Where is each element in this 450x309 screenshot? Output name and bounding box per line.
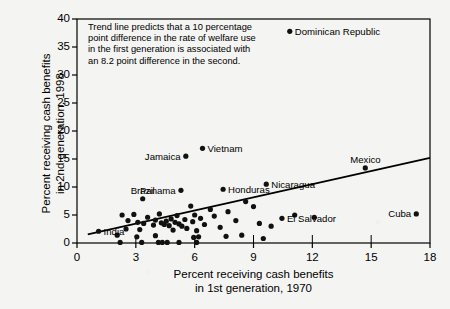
point-label: El Salvador [287,213,336,224]
point-label: Brazil [131,185,155,196]
point-label: Jamaica [145,151,181,162]
y-tick-label: 5 [40,208,70,220]
data-point [135,220,140,225]
point-label: Honduras [228,184,270,195]
point-label: Cuba [388,208,411,219]
point-label: Vietnam [208,143,243,154]
data-point [208,207,213,212]
point-label: Nicaragua [271,179,315,190]
data-point [118,240,123,245]
x-axis-title: Percent receiving cash benefits in 1st g… [77,268,430,295]
data-point [153,233,158,238]
data-point [153,217,158,222]
data-point [251,204,256,209]
point-label: Dominican Republic [295,26,380,37]
data-point [190,219,195,224]
point-label: Mexico [350,154,380,165]
data-point-labeled [221,187,226,192]
data-point [137,227,142,232]
data-point [198,216,203,221]
data-point [218,225,223,230]
data-point-labeled [178,188,183,193]
data-point-labeled [96,229,101,234]
data-point [182,217,187,222]
data-point [233,218,238,223]
y-tick-label: 25 [40,96,70,108]
data-point [151,222,156,227]
data-point [120,212,125,217]
data-point [164,219,169,224]
data-point [125,218,130,223]
x-tick-label: 9 [239,251,269,263]
data-point-labeled [200,146,205,151]
data-point [165,240,170,245]
data-point [184,226,189,231]
data-point [212,214,217,219]
data-point [194,240,199,245]
y-tick-label: 15 [40,152,70,164]
data-point [269,224,274,229]
data-point [170,228,175,233]
x-tick-label: 0 [62,251,92,263]
data-point [174,213,179,218]
data-point-labeled [140,196,145,201]
x-tick-label: 18 [415,251,445,263]
x-tick-label: 12 [297,251,327,263]
data-point [261,236,266,241]
data-point [134,234,139,239]
data-point [131,212,136,217]
data-point [225,209,230,214]
y-tick-label: 20 [40,124,70,136]
x-tick-label: 15 [356,251,386,263]
point-label: India [104,226,125,237]
data-point [139,240,144,245]
data-point [191,235,196,240]
y-tick-label: 30 [40,68,70,80]
data-point [145,215,150,220]
y-tick-label: 40 [40,12,70,24]
data-point [243,199,248,204]
data-point [192,212,197,217]
data-point-labeled [363,165,368,170]
data-point [169,216,174,221]
data-point [167,223,172,228]
data-point-labeled [414,211,419,216]
y-tick-label: 0 [40,236,70,248]
data-point [188,203,193,208]
data-point [196,234,201,239]
x-tick-label: 3 [121,251,151,263]
scatter-plot-figure: Percent receiving cash benefits in 2nd g… [0,0,450,309]
data-point [157,211,162,216]
data-point [239,233,244,238]
data-point [176,240,181,245]
data-point [194,228,199,233]
data-point [223,234,228,239]
y-tick-label: 35 [40,40,70,52]
data-point [179,224,184,229]
data-point [160,240,165,245]
data-point [202,222,207,227]
data-point [141,221,146,226]
trendline-annotation: Trend line predicts that a 10 percentage… [88,22,303,67]
data-point [257,221,262,226]
y-tick-label: 10 [40,180,70,192]
data-point-labeled [183,154,188,159]
x-tick-label: 6 [180,251,210,263]
data-point-labeled [279,216,284,221]
